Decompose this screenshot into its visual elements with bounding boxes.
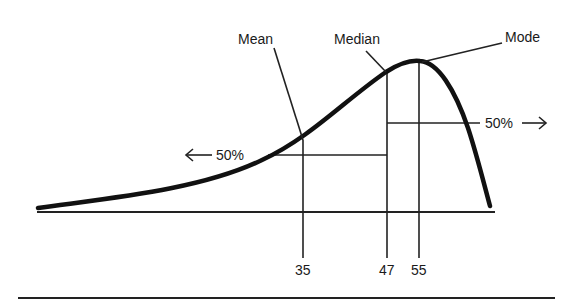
left-percent-label: 50% bbox=[216, 147, 244, 163]
skewed-distribution-diagram: Mean Median Mode 50% 50% 35 47 55 bbox=[0, 0, 582, 307]
left-arrow-icon bbox=[186, 149, 212, 161]
mode-label: Mode bbox=[505, 29, 540, 45]
right-percent-label: 50% bbox=[485, 115, 513, 131]
median-value-tick: 47 bbox=[379, 262, 395, 278]
distribution-curve bbox=[38, 61, 490, 208]
mean-leader-line bbox=[274, 48, 303, 140]
median-label: Median bbox=[334, 31, 380, 47]
median-leader-line bbox=[366, 51, 386, 72]
mode-leader-line bbox=[422, 43, 502, 62]
mean-value-tick: 35 bbox=[295, 262, 311, 278]
mean-label: Mean bbox=[238, 31, 273, 47]
mode-value-tick: 55 bbox=[411, 262, 427, 278]
right-arrow-icon bbox=[522, 117, 546, 129]
